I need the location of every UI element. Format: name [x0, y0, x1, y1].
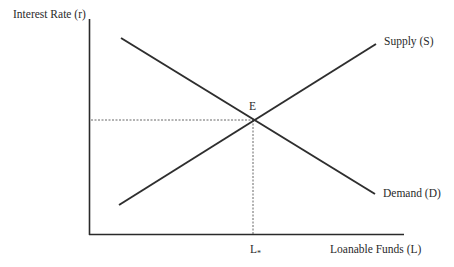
equilibrium-quantity-subscript: *: [257, 249, 261, 258]
equilibrium-quantity-symbol: L: [250, 243, 257, 255]
supply-curve: [119, 44, 376, 205]
equilibrium-quantity-label: L*: [250, 243, 261, 258]
equilibrium-label: E: [249, 100, 256, 112]
demand-curve: [121, 38, 375, 194]
supply-label: Supply (S): [384, 35, 434, 47]
x-axis-label: Loanable Funds (L): [330, 243, 421, 255]
demand-label: Demand (D): [383, 187, 441, 199]
y-axis-label: Interest Rate (r): [13, 8, 86, 20]
